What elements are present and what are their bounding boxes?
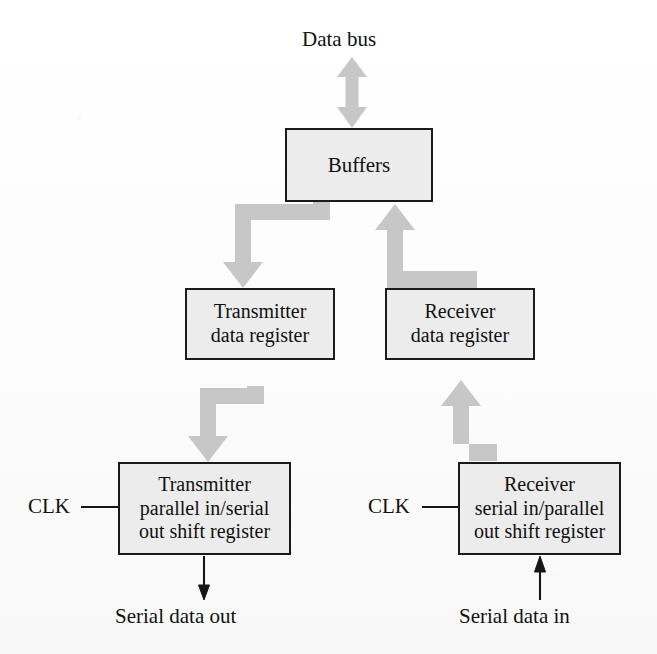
node-receiver-shift-register-label: Receiver serial in/parallel out shift re… (470, 473, 609, 544)
data-bus-label: Data bus (302, 27, 376, 52)
clk-label-receiver: CLK (368, 494, 410, 519)
node-buffers[interactable]: Buffers (285, 128, 433, 202)
clk-label-transmitter: CLK (28, 494, 70, 519)
node-transmitter-data-register-label: Transmitter data register (207, 300, 313, 347)
arrow-data-bus-buffers (337, 57, 367, 128)
node-transmitter-data-register[interactable]: Transmitter data register (185, 288, 335, 360)
node-receiver-data-register[interactable]: Receiver data register (385, 288, 535, 360)
arrow-receiver-shift-register-data-register (441, 380, 497, 461)
arrow-buffers-transmitter-data-register (223, 201, 330, 288)
serial-data-in-label: Serial data in (459, 604, 570, 629)
node-buffers-label: Buffers (324, 153, 395, 178)
arrowhead-serial-data-out (199, 585, 210, 600)
node-transmitter-shift-register[interactable]: Transmitter parallel in/serial out shift… (118, 462, 291, 555)
arrow-transmitter-data-register-shift-register (188, 386, 264, 462)
node-transmitter-shift-register-label: Transmitter parallel in/serial out shift… (135, 473, 274, 544)
arrowhead-serial-data-in (535, 556, 546, 572)
node-receiver-data-register-label: Receiver data register (407, 300, 513, 347)
diagram-canvas: Data bus CLK CLK Serial data out Serial … (0, 0, 657, 654)
arrow-receiver-data-register-buffers (375, 204, 477, 291)
serial-data-out-label: Serial data out (115, 604, 236, 629)
node-receiver-shift-register[interactable]: Receiver serial in/parallel out shift re… (458, 462, 621, 555)
